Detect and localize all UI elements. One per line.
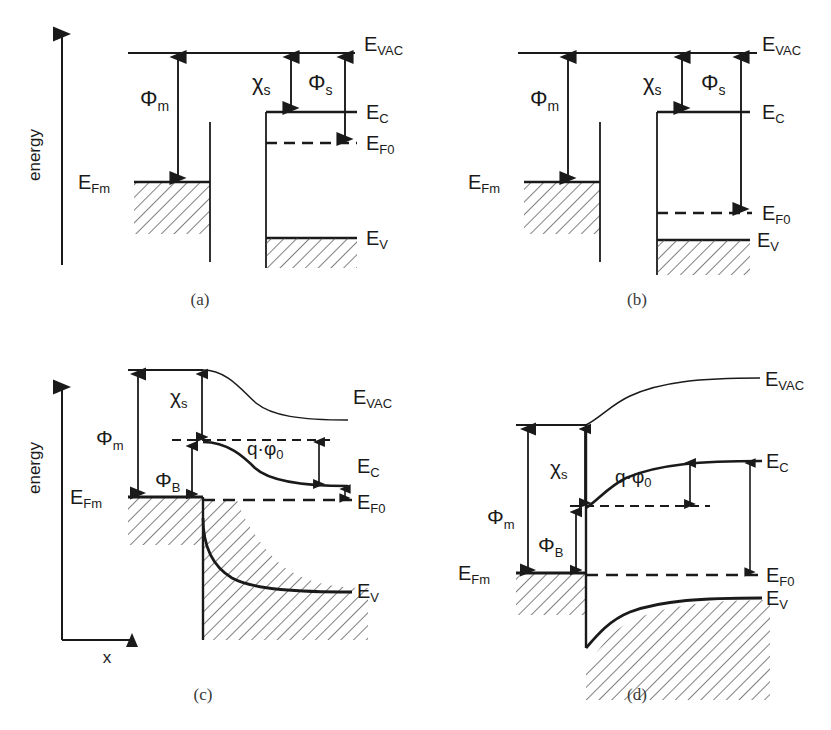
arrow-phi-b-d: ΦB [538,512,576,570]
arrow-phi-m-a: Φm [140,57,178,178]
metal-region-a [134,122,210,262]
label-evac-d: EVAC [765,368,804,393]
energy-axis-label-a: energy [25,129,44,181]
metal-region-b [524,122,600,262]
arrow-label-chi-s-a: χs [252,70,271,98]
arrow-chi-s-c: χs [170,374,202,437]
panel-b: Φm χs Φs EVAC EC EF0 EV EFm (b) [468,33,801,309]
panel-caption-a: (a) [191,290,210,309]
arrow-label-phi-b-c: ΦB [155,468,180,495]
label-ec-d: EC [766,450,789,475]
energy-band-diagram-figure: energy Φm χs Φ [0,0,831,730]
arrow-phi-s-a: Φs [308,57,345,139]
arrow-label-phi-m-d: Φm [487,505,515,532]
panel-a: energy Φm χs Φ [25,33,403,309]
label-efm-a: EFm [78,171,110,196]
arrow-label-chi-s-b: χs [643,70,662,98]
label-ev-a: EV [366,227,388,252]
panel-caption-b: (b) [627,290,647,309]
panel-caption-c: (c) [194,685,213,704]
label-evac-c: EVAC [353,386,392,411]
label-ef0-c: EF0 [357,491,386,516]
label-ec-a: EC [366,101,389,126]
energy-axis-c: energy x [25,387,132,667]
label-evac-b: EVAC [762,33,801,58]
arrow-phi-m-b: Φm [530,57,568,178]
curve-ec-d [586,461,762,508]
arrow-phi-b-c: ΦB [155,446,192,495]
label-efm-d: EFm [458,562,490,587]
label-efm-c: EFm [70,486,102,511]
arrow-chi-s-d: χs [550,429,585,503]
arrow-label-phi-m-a: Φm [140,86,169,114]
arrow-label-q-phi0-c: q·φ0 [247,438,283,462]
label-efm-b: EFm [468,171,500,196]
label-evac-a: EVAC [364,33,403,58]
energy-axis-label-c: energy [25,442,44,494]
panel-c: energy x Φm [25,370,392,704]
arrow-phi-m-c: Φm [96,374,138,493]
label-ef0-d: EF0 [766,564,795,589]
label-ec-b: EC [762,101,785,126]
arrow-phi-s-b: Φs [701,57,741,209]
arrow-label-phi-m-b: Φm [530,86,559,114]
semiconductor-region-b [657,112,752,275]
semiconductor-region-a [266,112,357,268]
arrow-label-q-phi0-d: q·φ0 [615,466,651,490]
label-ev-b: EV [757,229,779,254]
arrow-label-phi-s-a: Φs [308,70,333,98]
arrow-label-phi-m-c: Φm [96,426,124,453]
metal-region-c [128,497,203,545]
label-ev-d: EV [766,587,788,612]
curve-evac-c [203,370,348,420]
curve-evac-d [586,378,760,425]
energy-axis-a: energy [25,34,62,265]
arrow-label-chi-s-d: χs [550,456,568,482]
metal-region-d [516,573,586,615]
semiconductor-hatch-d [586,573,770,700]
label-ev-c: EV [357,580,379,605]
arrow-label-phi-b-d: ΦB [538,533,563,560]
label-ef0-b: EF0 [762,202,791,227]
arrow-chi-s-b: χs [643,57,682,108]
arrow-phi-m-d: Φm [487,429,528,570]
panel-caption-d: (d) [627,685,647,704]
arrow-chi-s-a: χs [252,57,291,108]
label-ef0-a: EF0 [366,132,395,157]
arrow-label-chi-s-c: χs [170,385,188,411]
panel-d: Φm χs ΦB q·φ0 EVAC EC EF0 EV EFm (d) [458,368,804,704]
x-axis-label-c: x [103,648,112,667]
arrow-q-phi0-c: q·φ0 [247,438,319,484]
label-ec-c: EC [357,455,380,480]
arrow-label-phi-s-b: Φs [701,70,726,98]
semiconductor-hatch-c [203,497,368,640]
